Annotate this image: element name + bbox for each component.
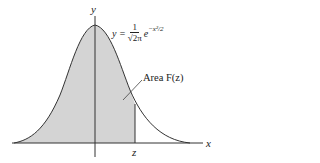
x-axis-label: x bbox=[206, 138, 211, 149]
formula-exponent: −x²/2 bbox=[148, 25, 163, 33]
formula-fraction: 1 √2π bbox=[128, 22, 142, 44]
formula-denominator: √2π bbox=[128, 33, 142, 44]
area-label: Area F(z) bbox=[143, 72, 184, 83]
y-axis-label: y bbox=[91, 4, 96, 15]
density-formula: y = 1 √2π e −x²/2 bbox=[112, 22, 164, 44]
z-label: z bbox=[132, 147, 136, 158]
formula-numerator: 1 bbox=[130, 22, 139, 33]
formula-lhs: y = bbox=[112, 28, 126, 39]
